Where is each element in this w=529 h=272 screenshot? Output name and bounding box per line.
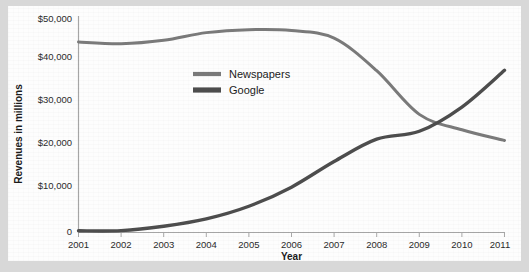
series-line-newspapers xyxy=(79,29,505,140)
x-tick-label: 2004 xyxy=(196,239,217,250)
x-tick-label: 2007 xyxy=(324,239,345,250)
chart-card: Revenues in millions $50,000 $40,000 $30… xyxy=(8,6,521,261)
series-line-google xyxy=(79,70,505,231)
x-axis-title: Year xyxy=(281,251,302,261)
x-axis-ticks: 2001 2002 2003 2004 2005 2006 2007 2008 … xyxy=(68,239,510,250)
x-tick-label: 2009 xyxy=(409,239,430,250)
y-axis-title: Revenues in millions xyxy=(13,84,24,184)
x-tick-label: 2008 xyxy=(366,239,387,250)
x-tick-label: 2010 xyxy=(451,239,472,250)
y-tick-label: $30,000 xyxy=(38,94,72,105)
x-tick-label: 2001 xyxy=(68,239,89,250)
x-tick-label: 2006 xyxy=(281,239,302,250)
legend-label-newspapers: Newspapers xyxy=(229,68,291,80)
y-tick-label: $50,000 xyxy=(38,13,72,24)
x-tick-label: 2002 xyxy=(111,239,132,250)
y-tick-label: 0 xyxy=(67,226,72,237)
page-frame: Revenues in millions $50,000 $40,000 $30… xyxy=(0,0,529,272)
line-chart: Revenues in millions $50,000 $40,000 $30… xyxy=(8,6,521,261)
x-tick-label: 2011 xyxy=(490,239,510,250)
x-tick-label: 2005 xyxy=(238,239,259,250)
legend-label-google: Google xyxy=(229,84,264,96)
chart-legend: Newspapers Google xyxy=(193,68,291,96)
y-tick-label: $40,000 xyxy=(38,51,72,62)
x-axis-tick-marks xyxy=(79,233,505,238)
y-tick-label: $10,000 xyxy=(38,180,72,191)
x-tick-label: 2003 xyxy=(153,239,174,250)
y-axis-ticks: $50,000 $40,000 $30,000 $20,000 $10,000 … xyxy=(38,13,72,237)
y-tick-label: $20,000 xyxy=(38,137,72,148)
